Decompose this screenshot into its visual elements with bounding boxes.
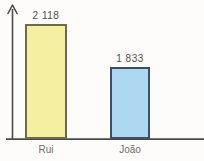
bar-value-label: 2 118 bbox=[10, 10, 82, 21]
bar-category-label: Rui bbox=[10, 144, 82, 156]
bar-value-label: 1 833 bbox=[95, 53, 165, 64]
bar bbox=[110, 67, 150, 139]
bar bbox=[25, 24, 67, 139]
bar-chart: 2 118Rui1 833João bbox=[0, 0, 204, 161]
bar-category-label: João bbox=[95, 144, 165, 156]
